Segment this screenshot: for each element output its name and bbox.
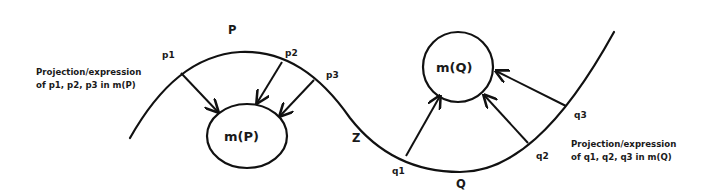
- label-q1: q1: [392, 166, 405, 176]
- arrow-p2: [257, 62, 282, 103]
- caption-q-line1: Projection/expression: [571, 139, 676, 149]
- label-q3: q3: [574, 110, 587, 120]
- caption-p-line2: of p1, p2, p3 in m(P): [36, 80, 136, 90]
- label-q: Q: [456, 177, 466, 191]
- label-m-p: m(P): [224, 129, 259, 144]
- label-p3: p3: [326, 70, 339, 80]
- caption-q-line2: of q1, q2, q3 in m(Q): [571, 152, 672, 162]
- arrow-q3: [496, 71, 566, 106]
- arrow-p1: [181, 73, 218, 112]
- arrow-q1: [406, 96, 440, 156]
- projection-diagram: P p1 p2 p3 m(P) Projection/expression of…: [0, 0, 719, 195]
- arrow-q2: [484, 95, 528, 143]
- label-z: Z: [352, 131, 360, 145]
- label-q2: q2: [536, 151, 549, 161]
- label-p: P: [228, 23, 236, 37]
- label-p2: p2: [285, 48, 298, 58]
- arrow-p3: [280, 80, 314, 116]
- caption-p-line1: Projection/expression: [36, 67, 141, 77]
- label-m-q: m(Q): [436, 60, 472, 75]
- label-p1: p1: [162, 50, 175, 60]
